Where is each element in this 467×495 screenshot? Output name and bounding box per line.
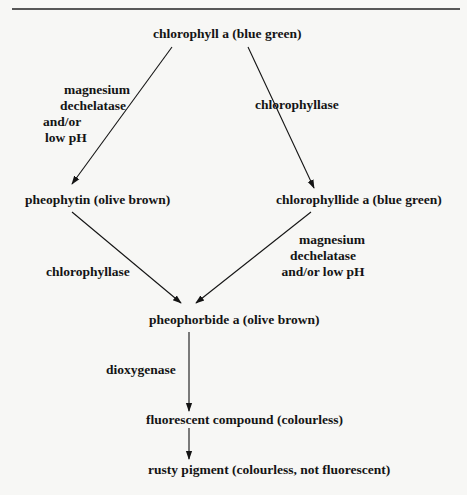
edge-label-line: low pH <box>45 130 87 146</box>
arrow-chlorophyll-to-chlorophyllide <box>248 47 314 188</box>
arrow-pheophytin-to-pheophorbide <box>72 212 181 303</box>
arrow-chlorophyll-to-pheophytin <box>72 47 172 184</box>
edge-label-line: and/or <box>43 114 87 130</box>
node-pheophorbide-a: pheophorbide a (olive brown) <box>149 312 319 328</box>
edge-label-line: magnesium <box>30 82 130 98</box>
edge-label-line: and/or low pH <box>272 264 374 280</box>
node-fluorescent-compound: fluorescent compound (colourless) <box>146 412 343 428</box>
node-rusty-pigment: rusty pigment (colourless, not fluoresce… <box>148 462 390 478</box>
edge-label-line: dechelatase <box>30 98 126 114</box>
edge-label-chlorophyllase-left: chlorophyllase <box>46 264 130 280</box>
edge-label-dioxygenase: dioxygenase <box>106 362 176 378</box>
edge-label-magnesium-dechelatase-right: magnesium dechelatase and/or low pH <box>272 232 392 280</box>
node-chlorophyllide-a: chlorophyllide a (blue green) <box>276 192 442 208</box>
edge-label-line: dechelatase <box>272 248 374 264</box>
node-pheophytin: pheophytin (olive brown) <box>25 192 170 208</box>
node-chlorophyll-a: chlorophyll a (blue green) <box>153 26 301 42</box>
edge-label-magnesium-dechelatase-left: magnesium dechelatase <box>30 82 130 114</box>
edge-label-chlorophyllase-right: chlorophyllase <box>255 97 339 113</box>
edge-label-andor-lowph-left: and/or low pH <box>43 114 87 146</box>
edge-label-line: magnesium <box>272 232 392 248</box>
